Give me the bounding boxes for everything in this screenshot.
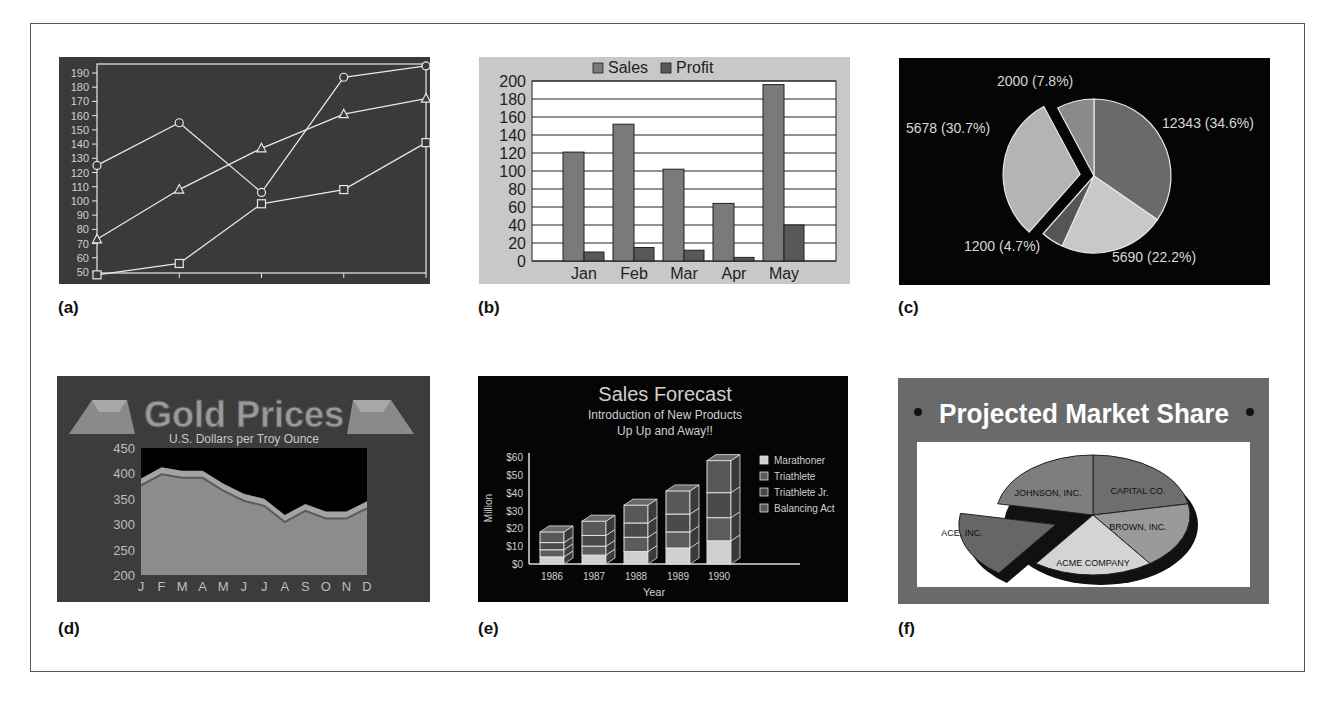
x-tick-label: O	[321, 579, 331, 594]
bar-segment	[666, 514, 690, 532]
chart-e-sales-forecast: Sales ForecastIntroduction of New Produc…	[478, 376, 848, 602]
x-tick-label: Mar	[670, 265, 698, 282]
x-axis-label: Year	[643, 586, 666, 598]
y-tick-label: 120	[71, 167, 89, 179]
square-marker	[422, 139, 430, 147]
panel-label-e: (e)	[478, 619, 499, 639]
chart-c-pie: 12343 (34.6%)5690 (22.2%)1200 (4.7%)5678…	[899, 58, 1270, 285]
y-tick-label: 60	[508, 199, 526, 216]
bar-sales	[763, 85, 784, 261]
bar-segment	[707, 461, 731, 493]
bar-profit	[734, 257, 754, 261]
y-tick-label: 140	[71, 138, 89, 150]
x-tick-label: J	[138, 579, 145, 594]
x-tick-label: 1986	[541, 571, 564, 582]
y-tick-label: 150	[71, 124, 89, 136]
chart-title: Projected Market Share	[939, 399, 1229, 429]
y-tick-label: $0	[512, 559, 524, 570]
x-tick-label: J	[240, 579, 247, 594]
bar-segment	[540, 557, 564, 564]
bar-profit	[584, 252, 604, 261]
x-tick-label: 1987	[583, 571, 606, 582]
circle-marker	[422, 62, 430, 70]
legend-swatch	[760, 488, 768, 496]
square-marker	[340, 186, 348, 194]
y-tick-label: 170	[71, 95, 89, 107]
panel-label-c: (c)	[898, 298, 919, 318]
square-marker	[175, 259, 183, 267]
bar-profit	[784, 225, 804, 261]
circle-marker	[175, 119, 183, 127]
x-tick-label: M	[177, 579, 188, 594]
chart-a-background	[59, 57, 430, 284]
x-tick-label: S	[301, 579, 310, 594]
y-tick-label: 130	[71, 152, 89, 164]
x-tick-label: 1990	[708, 571, 731, 582]
x-tick-label: J	[261, 579, 268, 594]
slice-label: ACME COMPANY	[1056, 558, 1129, 568]
legend-swatch	[661, 63, 671, 73]
x-tick-label: M	[218, 579, 229, 594]
bar-sales	[613, 124, 634, 261]
y-tick-label: 0	[517, 253, 526, 270]
legend-label: Balancing Act	[774, 503, 835, 514]
bar-sales	[563, 152, 584, 261]
square-marker	[93, 271, 101, 279]
chart-title: Sales Forecast	[598, 383, 732, 405]
bar-segment	[624, 523, 648, 537]
chart-f-market-share: Projected Market ShareCAPITAL CO.BROWN, …	[898, 378, 1269, 604]
bar-segment	[707, 493, 731, 518]
y-tick-label: 70	[77, 238, 89, 250]
x-tick-label: A	[198, 579, 207, 594]
square-marker	[258, 200, 266, 208]
legend-swatch	[760, 504, 768, 512]
slice-label: 1200 (4.7%)	[964, 238, 1040, 254]
bar-profit	[634, 248, 654, 262]
y-tick-label: $50	[506, 470, 523, 481]
y-tick-label: 80	[508, 181, 526, 198]
y-tick-label: 40	[508, 217, 526, 234]
chart-subtitle: Introduction of New Products	[588, 408, 742, 422]
legend-label: Triathlete	[774, 471, 816, 482]
panel-label-f: (f)	[898, 619, 915, 639]
y-tick-label: 160	[499, 109, 526, 126]
bar-segment	[582, 521, 606, 535]
y-tick-label: 250	[113, 543, 135, 558]
x-tick-label: N	[342, 579, 351, 594]
y-tick-label: $10	[506, 541, 523, 552]
slice-label: 2000 (7.8%)	[997, 73, 1073, 89]
y-tick-label: 80	[77, 223, 89, 235]
bar-segment	[582, 535, 606, 546]
x-tick-label: D	[362, 579, 371, 594]
y-tick-label: 60	[77, 252, 89, 264]
bar-sales	[713, 203, 734, 261]
bar-segment	[540, 543, 564, 550]
chart-d-gold-prices: Gold PricesU.S. Dollars per Troy Ounce20…	[57, 376, 430, 602]
bar-sales	[663, 169, 684, 261]
legend-label: Triathlete Jr.	[774, 487, 829, 498]
x-tick-label: A	[280, 579, 289, 594]
x-tick-label: Apr	[722, 265, 748, 282]
chart-subtitle: Up Up and Away!!	[617, 424, 713, 438]
y-tick-label: 180	[71, 81, 89, 93]
y-tick-label: 350	[113, 492, 135, 507]
bar-segment	[540, 532, 564, 543]
bar-segment	[707, 518, 731, 541]
x-tick-label: F	[158, 579, 166, 594]
bar-segment	[582, 555, 606, 564]
bar-segment	[624, 552, 648, 564]
legend-swatch	[760, 472, 768, 480]
slice-label: BROWN, INC.	[1109, 522, 1167, 532]
circle-marker	[93, 161, 101, 169]
chart-title: Gold Prices	[144, 394, 344, 435]
y-tick-label: 200	[499, 73, 526, 90]
bullet-icon	[1246, 408, 1254, 416]
y-tick-label: 90	[77, 209, 89, 221]
legend-label: Marathoner	[774, 455, 826, 466]
bar-segment	[707, 541, 731, 564]
y-tick-label: 20	[508, 235, 526, 252]
y-tick-label: $60	[506, 452, 523, 463]
slice-label: 12343 (34.6%)	[1162, 115, 1254, 131]
y-tick-label: 400	[113, 466, 135, 481]
legend-swatch	[760, 456, 768, 464]
